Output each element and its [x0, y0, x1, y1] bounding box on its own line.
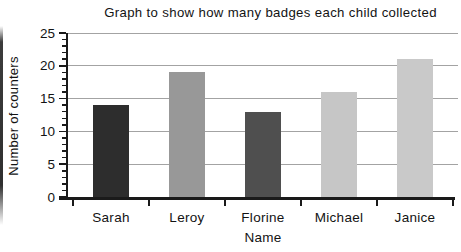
x-tick-4 — [376, 200, 378, 206]
y-minor-tick-19 — [62, 72, 66, 74]
x-category-label-leroy: Leroy — [149, 210, 225, 225]
y-minor-tick-21 — [62, 58, 66, 60]
chart-figure: Graph to show how many badges each child… — [0, 0, 461, 252]
y-minor-tick-17 — [62, 85, 66, 87]
y-minor-tick-2 — [62, 183, 66, 185]
y-major-tick-20 — [59, 65, 66, 67]
y-tick-label-25: 25 — [25, 27, 55, 40]
y-major-tick-25 — [59, 32, 66, 34]
y-major-tick-0 — [59, 196, 66, 198]
x-tick-1 — [148, 200, 150, 206]
y-minor-tick-6 — [62, 157, 66, 159]
y-minor-tick-18 — [62, 78, 66, 80]
y-tick-label-0: 0 — [25, 191, 55, 204]
bar-michael — [321, 92, 357, 197]
y-minor-tick-12 — [62, 118, 66, 120]
x-axis-title: Name — [213, 230, 313, 245]
y-tick-label-10: 10 — [25, 125, 55, 138]
y-major-tick-5 — [59, 163, 66, 165]
bar-sarah — [93, 105, 129, 197]
y-minor-tick-22 — [62, 52, 66, 54]
y-minor-tick-24 — [62, 39, 66, 41]
y-tick-label-5: 5 — [25, 158, 55, 171]
y-minor-tick-3 — [62, 177, 66, 179]
y-minor-tick-7 — [62, 150, 66, 152]
gridline-25 — [68, 33, 458, 34]
y-minor-tick-1 — [62, 190, 66, 192]
y-minor-tick-23 — [62, 45, 66, 47]
plot-area: 0510152025SarahLeroyFlorineMichaelJanice — [0, 0, 461, 252]
y-minor-tick-13 — [62, 111, 66, 113]
x-tick-5 — [452, 200, 454, 206]
y-minor-tick-8 — [62, 144, 66, 146]
x-category-label-michael: Michael — [301, 210, 377, 225]
y-minor-tick-16 — [62, 91, 66, 93]
x-category-label-janice: Janice — [377, 210, 453, 225]
x-category-label-florine: Florine — [225, 210, 301, 225]
y-minor-tick-11 — [62, 124, 66, 126]
x-category-label-sarah: Sarah — [73, 210, 149, 225]
y-minor-tick-4 — [62, 170, 66, 172]
bar-leroy — [169, 72, 205, 197]
x-tick-0 — [72, 200, 74, 206]
y-minor-tick-9 — [62, 137, 66, 139]
y-major-tick-10 — [59, 131, 66, 133]
bar-florine — [245, 112, 281, 197]
y-tick-label-15: 15 — [25, 92, 55, 105]
y-minor-tick-14 — [62, 104, 66, 106]
x-tick-3 — [300, 200, 302, 206]
y-axis-line — [66, 33, 68, 199]
y-tick-label-20: 20 — [25, 59, 55, 72]
x-axis-line — [59, 197, 455, 200]
bar-janice — [397, 59, 433, 197]
x-tick-2 — [224, 200, 226, 206]
y-major-tick-15 — [59, 98, 66, 100]
